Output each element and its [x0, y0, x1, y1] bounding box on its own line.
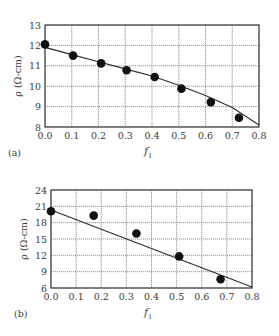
y-tick-label: 24: [35, 185, 47, 196]
x-tick-label: 0.6: [198, 130, 213, 141]
y-tick-label: 12: [29, 40, 41, 51]
x-axis-label: f1: [143, 306, 152, 321]
data-point: [69, 51, 78, 60]
data-point: [207, 98, 216, 107]
y-tick-label: 13: [29, 20, 41, 31]
data-point: [175, 252, 184, 261]
data-point: [150, 73, 159, 82]
y-tick-label: 9: [41, 266, 47, 277]
y-tick-label: 21: [35, 201, 47, 212]
x-tick-label: 0.8: [244, 291, 259, 302]
x-tick-label: 0.2: [94, 291, 109, 302]
x-tick-label: 0.1: [64, 130, 79, 141]
x-tick-label: 0.8: [251, 130, 266, 141]
data-point: [41, 40, 50, 49]
x-tick-label: 0.6: [194, 291, 209, 302]
x-tick-label: 0.7: [225, 130, 240, 141]
chart-panel-b: 0.00.10.20.30.40.50.60.70.8691215182124ρ…: [14, 185, 260, 322]
x-axis-label: f1: [143, 145, 152, 160]
x-tick-label: 0.3: [119, 291, 134, 302]
data-point: [177, 84, 186, 93]
panel-label: (b): [14, 308, 28, 319]
y-tick-label: 10: [29, 81, 41, 92]
data-point: [97, 59, 106, 68]
y-tick-label: 8: [35, 122, 41, 133]
y-tick-label: 12: [35, 250, 47, 261]
data-point: [216, 275, 225, 284]
chart-panel-a: 0.00.10.20.30.40.50.60.70.88910111213ρ (…: [8, 20, 267, 161]
x-tick-label: 0.5: [171, 130, 186, 141]
data-point: [235, 114, 244, 123]
grid: [51, 190, 252, 288]
data-point: [89, 211, 98, 220]
x-tick-label: 0.4: [144, 291, 159, 302]
y-tick-label: 15: [35, 234, 47, 245]
y-axis-label: ρ (Ω-cm): [12, 55, 23, 96]
y-tick-label: 11: [29, 60, 41, 71]
y-tick-label: 6: [41, 283, 47, 294]
panel-label: (a): [8, 147, 21, 158]
x-tick-label: 0.2: [91, 130, 106, 141]
figure: 0.00.10.20.30.40.50.60.70.88910111213ρ (…: [0, 0, 279, 336]
x-tick-label: 0.4: [144, 130, 159, 141]
data-point: [47, 207, 56, 216]
data-point: [122, 66, 131, 75]
y-tick-label: 18: [35, 217, 47, 228]
x-tick-label: 0.5: [169, 291, 184, 302]
x-tick-label: 0.7: [219, 291, 234, 302]
x-tick-label: 0.1: [69, 291, 84, 302]
data-point: [132, 229, 141, 238]
y-axis-label: ρ (Ω-cm): [18, 218, 29, 259]
y-tick-label: 9: [35, 101, 41, 112]
x-tick-label: 0.3: [118, 130, 133, 141]
